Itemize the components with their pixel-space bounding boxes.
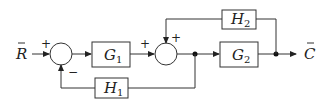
input-label: R <box>15 43 27 63</box>
block-h2-sub: 2 <box>244 18 250 29</box>
input-symbol: R <box>15 45 27 63</box>
summing-circle-2 <box>155 43 177 65</box>
block-diagram: R + − G 1 + + G 2 C H <box>0 0 332 108</box>
block-g1-name: G <box>104 46 116 64</box>
block-h2: H 2 <box>222 10 256 29</box>
s2-plus-sign-top: + <box>171 31 181 45</box>
s1-plus-sign: + <box>41 37 51 51</box>
block-g2-sub: 2 <box>244 54 250 65</box>
s1-minus-sign: − <box>68 65 78 79</box>
block-h1: H 1 <box>95 78 128 98</box>
summing-junction-1: + − <box>41 37 78 79</box>
block-g1: G 1 <box>92 42 130 67</box>
block-g1-sub: 1 <box>116 54 122 65</box>
s2-plus-sign-left: + <box>140 37 150 51</box>
wire-node2-to-h2 <box>256 19 276 54</box>
output-symbol: C <box>304 45 316 63</box>
summing-circle-1 <box>50 43 72 65</box>
block-h1-sub: 1 <box>117 87 123 98</box>
block-h1-name: H <box>103 79 118 97</box>
summing-junction-2: + + <box>140 31 181 65</box>
block-g2: G 2 <box>220 42 258 67</box>
output-label: C <box>304 43 316 63</box>
block-g2-name: G <box>232 46 244 64</box>
block-h2-name: H <box>230 10 245 28</box>
